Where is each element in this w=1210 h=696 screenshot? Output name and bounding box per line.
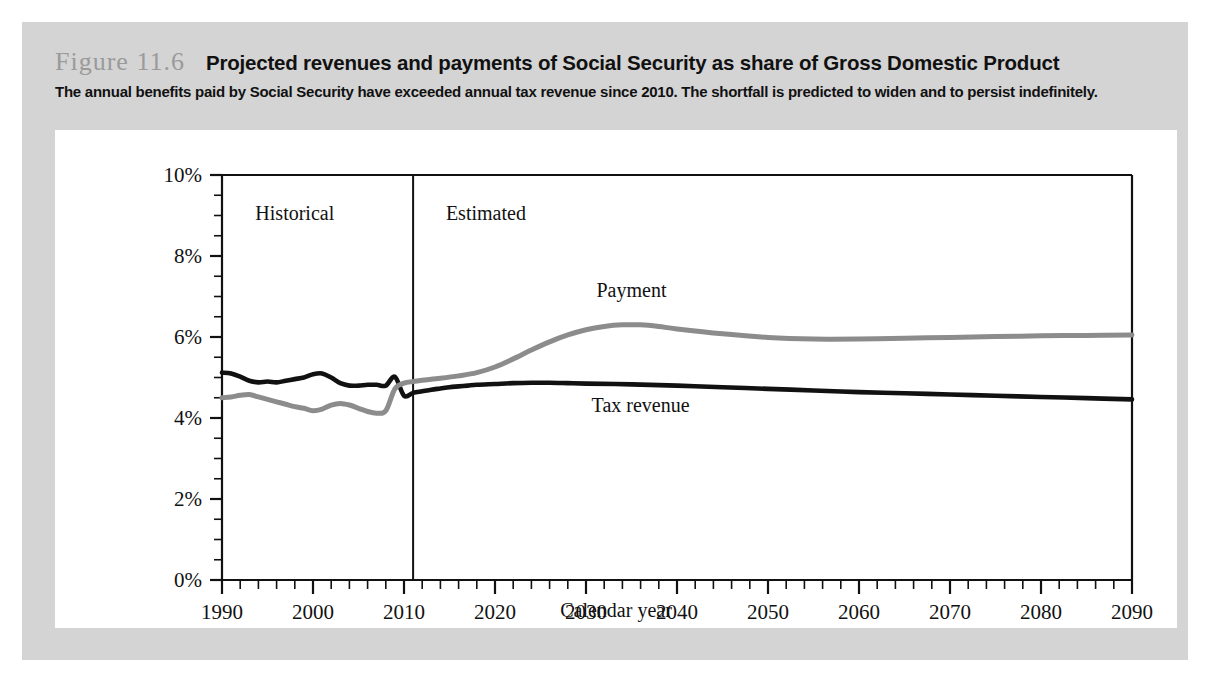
figure-number: Figure 11.6 (55, 47, 185, 77)
chart-card: 0%2%4%6%8%10% 19902000201020202030204020… (55, 130, 1177, 628)
x-tick-label: 2080 (1020, 600, 1062, 624)
x-tick-label: 2070 (929, 600, 971, 624)
figure-title: Projected revenues and payments of Socia… (206, 51, 1059, 75)
y-tick-label: 6% (174, 325, 202, 349)
estimated-label: Estimated (446, 202, 526, 224)
figure-panel: Figure 11.6Projected revenues and paymen… (22, 22, 1188, 660)
x-axis-title: Calendar year (560, 599, 672, 622)
figure-title-block: Figure 11.6Projected revenues and paymen… (55, 47, 1175, 133)
x-tick-label: 2050 (747, 600, 789, 624)
figure-subtitle: The annual benefits paid by Social Secur… (55, 83, 1175, 100)
y-tick-label: 4% (174, 406, 202, 430)
x-tick-label: 2010 (383, 600, 425, 624)
y-tick-label: 0% (174, 568, 202, 592)
y-tick-label: 10% (164, 163, 203, 187)
figure-heading-row: Figure 11.6Projected revenues and paymen… (55, 47, 1175, 77)
y-tick-label: 2% (174, 487, 202, 511)
x-tick-label: 2020 (474, 600, 516, 624)
historical-label: Historical (255, 202, 334, 224)
x-axis: 1990200020102020203020402050206020702080… (201, 580, 1153, 624)
x-tick-label: 1990 (201, 600, 243, 624)
tax-revenue-label: Tax revenue (592, 394, 690, 416)
y-tick-label: 8% (174, 244, 202, 268)
line-chart: 0%2%4%6%8%10% 19902000201020202030204020… (55, 130, 1177, 628)
payment-label: Payment (597, 279, 667, 302)
x-tick-label: 2090 (1111, 600, 1153, 624)
x-tick-label: 2060 (838, 600, 880, 624)
x-tick-label: 2000 (292, 600, 334, 624)
